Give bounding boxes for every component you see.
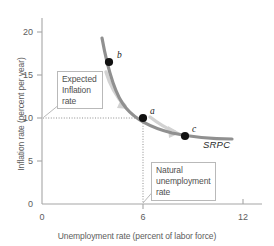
data-point-c [181,132,189,140]
srpc-curve-label: SRPC [203,139,230,150]
natural-callout-line-3: rate [156,187,212,198]
data-point-b [105,58,113,66]
x-axis-title: Unemployment rate (percent of labor forc… [0,231,274,241]
natural-unemployment-callout: Natural unemployment rate [151,162,216,201]
data-point-label-c: c [192,124,196,134]
natural-callout-line-1: Natural [156,165,212,176]
natural-callout-line-2: unemployment [156,176,212,187]
data-point-label-b: b [117,50,122,60]
phillips-curve-figure: Expected Inflation rate Natural unemploy… [0,0,274,246]
expected-callout-line-2: Inflation [62,85,99,96]
data-point-label-a: a [150,106,155,116]
x-tick-label-12: 12 [232,212,254,222]
expected-inflation-callout: Expected Inflation rate [57,71,103,109]
y-axis-title: Inflation rate (percent per year) [16,14,26,214]
x-tick-label-0: 0 [31,212,53,222]
data-point-a [139,114,147,122]
expected-callout-line-3: rate [62,96,99,107]
expected-callout-line-1: Expected [62,74,99,85]
chart-canvas [0,0,274,246]
x-tick-label-6: 6 [132,212,154,222]
